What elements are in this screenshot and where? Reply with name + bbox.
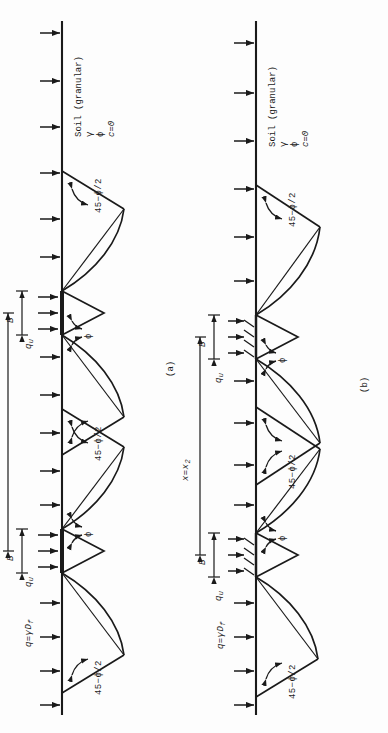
panel-b-soil-cohesion: c=0 bbox=[301, 66, 312, 147]
panel-a-angle-label-1: 45−ϕ/2 bbox=[94, 660, 104, 695]
footing-1 bbox=[38, 529, 62, 573]
panel-a-angle-label-2: 45−ϕ/2 bbox=[94, 426, 104, 461]
figure-panel-a: x=x1 B B qu qu q=γDf 45−ϕ/2 45−ϕ/2 45−ϕ/… bbox=[0, 0, 194, 733]
footing-2 bbox=[38, 291, 62, 335]
spacing-dimension bbox=[195, 337, 206, 555]
panel-a-angle-label-3: 45−ϕ/2 bbox=[94, 178, 104, 213]
surcharge-arrows bbox=[40, 33, 60, 705]
panel-b-soil-title: Soil (granular) bbox=[268, 66, 279, 147]
panel-b-spacing-label: x=x2 bbox=[181, 459, 192, 481]
panel-a-caption: (a) bbox=[166, 361, 176, 377]
panel-a-phi-label-2: ϕ bbox=[84, 333, 94, 339]
angle-arcs-phi bbox=[266, 345, 276, 547]
failure-surface-2 bbox=[62, 171, 124, 455]
failure-surface-2 bbox=[256, 185, 320, 485]
panel-a-soil-title: Soil (granular) bbox=[74, 56, 85, 137]
panel-b-width-label-1: B bbox=[198, 559, 208, 565]
panel-a-soil-gamma: γ bbox=[85, 56, 96, 137]
figure-panel-b: x=x2 B B qu qu q=γDf 45−ϕ/2 45−ϕ/2 45−ϕ/… bbox=[194, 0, 388, 733]
panel-b-phi-label-1: ϕ bbox=[278, 535, 288, 541]
panel-a-phi-label-1: ϕ bbox=[84, 531, 94, 537]
footing-2 bbox=[228, 315, 256, 359]
failure-surface-1 bbox=[256, 407, 320, 697]
footing-hatch bbox=[244, 320, 254, 357]
panel-b-width-label-2: B bbox=[198, 341, 208, 347]
failure-surface-1 bbox=[62, 409, 124, 693]
figure-page: x=x1 B B qu qu q=γDf 45−ϕ/2 45−ϕ/2 45−ϕ/… bbox=[0, 0, 388, 733]
surcharge-arrows bbox=[234, 43, 254, 705]
width-dimension bbox=[208, 315, 220, 577]
panel-b-soil-phi: ϕ bbox=[290, 66, 301, 147]
panel-b-bearing-label-2: qu bbox=[214, 373, 225, 383]
panel-b-stage: x=x2 B B qu qu q=γDf 45−ϕ/2 45−ϕ/2 45−ϕ/… bbox=[194, 0, 388, 733]
panel-a-stage: x=x1 B B qu qu q=γDf 45−ϕ/2 45−ϕ/2 45−ϕ/… bbox=[0, 0, 194, 733]
panel-b-surcharge-label: q=γDf bbox=[216, 621, 227, 649]
panel-b-caption: (b) bbox=[360, 377, 370, 393]
spacing-dimension bbox=[3, 313, 14, 551]
panel-a-width-label-1: B bbox=[6, 555, 16, 561]
panel-a-width-label-2: B bbox=[6, 317, 16, 323]
panel-b-soil-gamma: γ bbox=[279, 66, 290, 147]
footing-hatch bbox=[244, 538, 254, 575]
panel-a-bearing-label-1: qu bbox=[24, 577, 35, 587]
angle-arcs-45 bbox=[72, 189, 88, 675]
panel-b-soil-block: Soil (granular) γ ϕ c=0 bbox=[268, 66, 312, 147]
footing-1 bbox=[228, 533, 256, 577]
panel-a-soil-block: Soil (granular) γ ϕ c=0 bbox=[74, 56, 118, 137]
panel-b-phi-label-2: ϕ bbox=[278, 357, 288, 363]
panel-b-angle-label-1: 45−ϕ/2 bbox=[288, 664, 298, 699]
panel-a-soil-phi: ϕ bbox=[96, 56, 107, 137]
panel-a-surcharge-label: q=γDf bbox=[24, 619, 35, 647]
panel-a-soil-cohesion: c=0 bbox=[107, 56, 118, 137]
panel-b-angle-label-2: 45−ϕ/2 bbox=[288, 454, 298, 489]
panel-b-angle-label-3: 45−ϕ/2 bbox=[288, 192, 298, 227]
panel-b-bearing-label-1: qu bbox=[214, 591, 225, 601]
panel-a-bearing-label-2: qu bbox=[24, 339, 35, 349]
width-dimension bbox=[16, 291, 28, 573]
